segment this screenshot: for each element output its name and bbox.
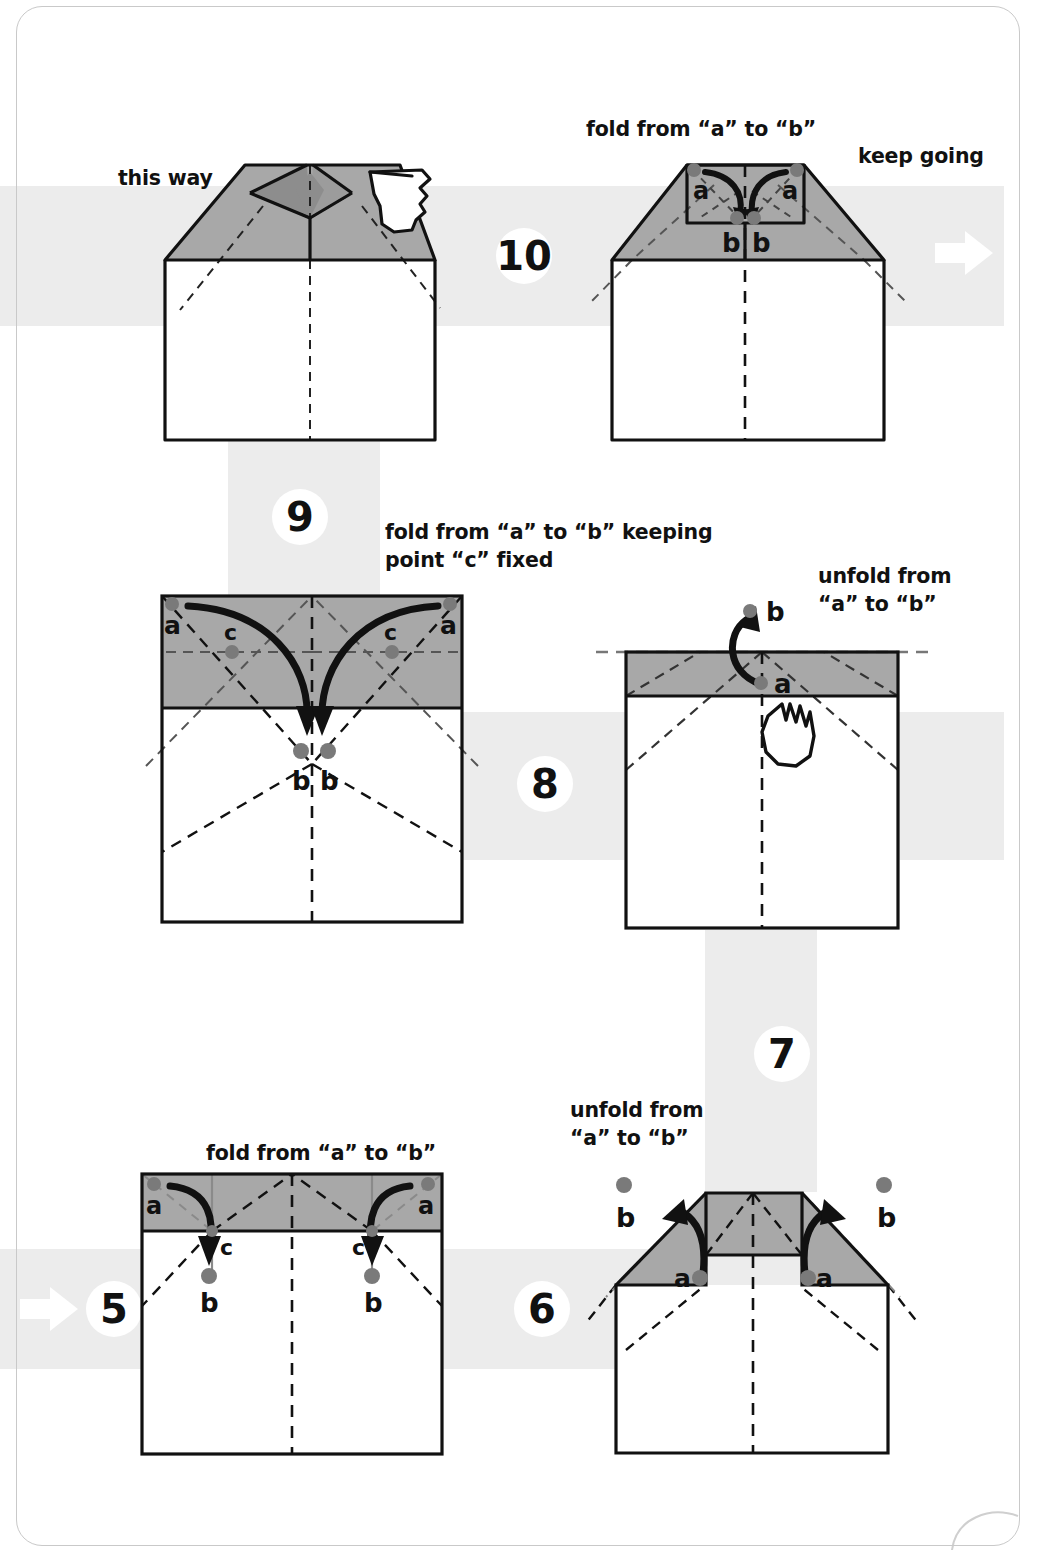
point-dot-c-left <box>225 645 239 659</box>
page-corner-flourish <box>950 1500 1020 1552</box>
point-dot-a-left <box>147 1177 161 1191</box>
point-dot-a-right <box>443 597 457 611</box>
point-label-a-right: a <box>440 611 457 640</box>
point-label-a-left: a <box>693 177 709 205</box>
point-dot-a-left <box>687 163 701 177</box>
origami-instruction-page: 10 9 8 7 6 5 this way fold from “a” to “… <box>0 0 1038 1552</box>
caption-fold-a-to-b-keeping-c: fold from “a” to “b” keeping point “c” f… <box>385 519 712 574</box>
point-dot-a-right <box>421 1177 435 1191</box>
figure-step10-result <box>150 150 520 450</box>
point-dot-b-right <box>747 211 761 225</box>
point-label-b-left: b <box>200 1288 219 1318</box>
point-dot-b-right <box>320 743 336 759</box>
point-label-c-right: c <box>352 1235 365 1260</box>
point-label-b-right: b <box>320 766 339 796</box>
point-label-b-left: b <box>722 228 741 258</box>
point-dot-b-left <box>730 211 744 225</box>
point-dot-b <box>743 604 757 618</box>
flow-arrow-out <box>935 225 997 281</box>
flow-arrow-in <box>20 1281 82 1337</box>
point-label-c-left: c <box>220 1235 233 1260</box>
point-dot-b-right <box>364 1268 380 1284</box>
point-label-a-left: a <box>164 611 181 640</box>
point-label-a-left: a <box>146 1192 162 1220</box>
point-label-c-right: c <box>384 620 397 645</box>
point-dot-b-left <box>293 743 309 759</box>
step-number-5: 5 <box>86 1281 142 1337</box>
point-label-a: a <box>774 669 792 699</box>
step-number-8: 8 <box>517 756 573 812</box>
point-label-a-right: a <box>418 1192 434 1220</box>
point-label-b: b <box>766 597 785 627</box>
body-front-area <box>165 260 435 440</box>
point-dot-b-left <box>201 1268 217 1284</box>
unfold-arrowhead-right <box>820 1199 846 1225</box>
point-label-a-right: a <box>782 177 798 205</box>
figure-step8: b a <box>600 580 940 940</box>
caption-unfold-a-to-b-step6: unfold from “a” to “b” <box>570 1097 703 1152</box>
point-label-b-left: b <box>292 766 311 796</box>
point-dot-b-left <box>616 1177 632 1193</box>
point-dot-c-right <box>366 1225 378 1237</box>
point-label-a-left: a <box>674 1264 691 1293</box>
point-label-b-left: b <box>616 1202 635 1233</box>
point-label-b-right: b <box>364 1288 383 1318</box>
point-label-b-right: b <box>752 228 771 258</box>
point-label-a-right: a <box>816 1264 833 1293</box>
step-number-7: 7 <box>754 1026 810 1082</box>
point-label-c-left: c <box>224 620 237 645</box>
caption-fold-a-to-b-step5: fold from “a” to “b” <box>206 1140 436 1168</box>
figure-step10: a a b b <box>592 155 932 447</box>
point-dot-a-right <box>790 163 804 177</box>
step-number-6: 6 <box>514 1281 570 1337</box>
point-dot-a-right <box>800 1270 816 1286</box>
point-dot-c-left <box>206 1225 218 1237</box>
point-label-b-right: b <box>877 1202 896 1233</box>
figure-step6: b b a a <box>596 1155 946 1465</box>
point-dot-a-left <box>692 1270 708 1286</box>
point-dot-a-left <box>165 597 179 611</box>
point-dot-b-right <box>876 1177 892 1193</box>
step-number-9: 9 <box>272 489 328 545</box>
point-dot-c-right <box>385 645 399 659</box>
point-dot-a <box>754 676 768 690</box>
figure-step9: a a c c b b <box>160 594 480 934</box>
caption-fold-a-to-b-step10: fold from “a” to “b” <box>586 116 816 144</box>
figure-step5: a a c c b b <box>140 1172 450 1458</box>
body-front-area <box>612 260 884 440</box>
unfold-arrowhead-left <box>662 1199 688 1225</box>
